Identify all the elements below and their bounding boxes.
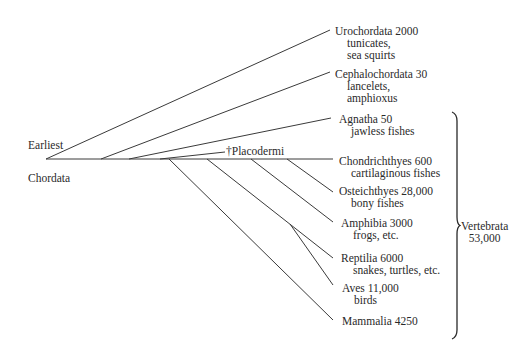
branch-cephalochordata xyxy=(101,72,330,159)
root-label-earliest: Earliest xyxy=(28,139,63,151)
taxon-amphibia: Amphibia 3000 frogs, etc. xyxy=(341,217,413,241)
taxon-common: tunicates, xyxy=(335,37,418,49)
taxon-name: Amphibia 3000 xyxy=(341,217,413,229)
taxon-reptilia: Reptilia 6000 snakes, turtles, etc. xyxy=(341,252,440,276)
taxon-common: snakes, turtles, etc. xyxy=(341,264,440,276)
taxon-name: †Placodermi xyxy=(226,145,284,157)
group-name: Vertebrata xyxy=(461,220,508,232)
taxon-agnatha: Agnatha 50 jawless fishes xyxy=(339,113,415,137)
branch-aves xyxy=(290,224,333,285)
taxon-common: lancelets, xyxy=(335,80,427,92)
taxon-name: Chondrichthyes 600 xyxy=(339,155,432,167)
branch-placodermi xyxy=(160,152,225,159)
root-label-chordata: Chordata xyxy=(28,172,70,184)
taxon-name: Urochordata 2000 xyxy=(335,25,418,37)
taxon-osteichthyes: Osteichthyes 28,000 bony fishes xyxy=(339,185,433,209)
taxon-common: jawless fishes xyxy=(339,125,415,137)
taxon-name: Cephalochordata 30 xyxy=(335,68,427,80)
branch-osteichthyes xyxy=(287,159,333,192)
taxon-mammalia: Mammalia 4250 xyxy=(342,315,418,327)
taxon-name: Agnatha 50 xyxy=(339,113,392,125)
taxon-chondrichthyes: Chondrichthyes 600 cartilaginous fishes xyxy=(339,155,440,179)
branch-mammalia xyxy=(169,159,333,320)
vertebrata-brace xyxy=(451,111,461,340)
taxon-name: Reptilia 6000 xyxy=(341,252,403,264)
taxon-common: amphioxus xyxy=(335,92,427,104)
taxon-cephalochordata: Cephalochordata 30 lancelets, amphioxus xyxy=(335,68,427,104)
taxon-name: Aves 11,000 xyxy=(342,282,399,294)
branch-urochordata xyxy=(46,30,330,159)
branch-amphibia xyxy=(251,159,333,222)
taxon-common: sea squirts xyxy=(335,49,418,61)
taxon-urochordata: Urochordata 2000 tunicates, sea squirts xyxy=(335,25,418,61)
taxon-name: Osteichthyes 28,000 xyxy=(339,185,433,197)
group-count: 53,000 xyxy=(461,232,508,244)
taxon-name: Mammalia 4250 xyxy=(342,315,418,327)
taxon-common: birds xyxy=(342,294,399,306)
group-vertebrata: Vertebrata 53,000 xyxy=(461,220,508,244)
taxon-common: frogs, etc. xyxy=(341,229,413,241)
taxon-aves: Aves 11,000 birds xyxy=(342,282,399,306)
taxon-common: cartilaginous fishes xyxy=(339,167,440,179)
taxon-placodermi: †Placodermi xyxy=(226,145,284,157)
taxon-common: bony fishes xyxy=(339,197,433,209)
